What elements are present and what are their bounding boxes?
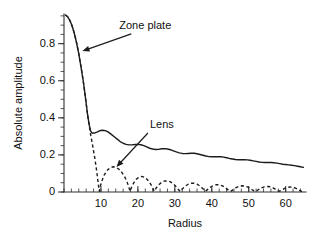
y-axis-title: Absolute amplitude xyxy=(12,56,24,150)
y-tick-label: 0.6 xyxy=(40,74,55,86)
y-tick-label: 0.8 xyxy=(40,37,55,49)
y-axis-major-ticks xyxy=(58,44,64,192)
x-tick-label: 30 xyxy=(169,197,181,209)
annotation-arrowhead xyxy=(82,46,90,51)
series-zone-plate xyxy=(65,15,303,167)
series-lens xyxy=(65,15,303,192)
annotation-label: Lens xyxy=(150,118,174,130)
x-tick-label: 10 xyxy=(95,197,107,209)
x-tick-label: 60 xyxy=(280,197,292,209)
y-axis-group: 00.20.40.60.8 xyxy=(40,14,64,197)
annotation-arrow-line xyxy=(84,34,131,51)
absolute-amplitude-vs-radius-chart: 00.20.40.60.8 102030405060 Radius Absolu… xyxy=(0,0,324,243)
y-tick-label: 0 xyxy=(49,185,55,197)
y-tick-label: 0.2 xyxy=(40,148,55,160)
series-layer xyxy=(65,15,303,192)
x-axis-title: Radius xyxy=(168,217,203,229)
x-axis-tick-labels: 102030405060 xyxy=(95,197,292,209)
y-axis-tick-labels: 00.20.40.60.8 xyxy=(40,37,55,197)
annotation-arrow-line xyxy=(118,133,148,165)
y-tick-label: 0.4 xyxy=(40,111,55,123)
x-tick-label: 40 xyxy=(206,197,218,209)
annotation-label: Zone plate xyxy=(119,19,171,31)
figure-container: 00.20.40.60.8 102030405060 Radius Absolu… xyxy=(0,0,324,243)
x-tick-label: 20 xyxy=(132,197,144,209)
x-tick-label: 50 xyxy=(243,197,255,209)
